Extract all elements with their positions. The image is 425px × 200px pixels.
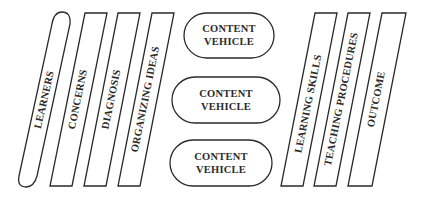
left-columns: LEARNERS CONCERNS DIAGNOSIS ORGANIZING I… — [19, 12, 174, 187]
content-vehicle-node-1: CONTENT VEHICLE — [184, 13, 274, 58]
content-vehicle-label-3-line2: VEHICLE — [196, 164, 246, 175]
content-vehicle-label-2-line1: CONTENT — [199, 88, 252, 99]
content-vehicle-label-1-line2: VEHICLE — [204, 36, 254, 47]
curriculum-diagram: LEARNERS CONCERNS DIAGNOSIS ORGANIZING I… — [0, 0, 425, 200]
right-columns: LEARNING SKILLS TEACHING PROCEDURES OUTC… — [281, 13, 406, 186]
content-vehicle-label-1-line1: CONTENT — [202, 23, 255, 34]
content-vehicle-label-3-line1: CONTENT — [194, 151, 247, 162]
content-vehicle-label-2-line2: VEHICLE — [201, 101, 251, 112]
content-vehicle-shape-3 — [170, 140, 272, 186]
content-vehicle-shape-2 — [172, 77, 280, 123]
center-nodes: CONTENT VEHICLE CONTENT VEHICLE CONTENT … — [170, 13, 280, 186]
content-vehicle-node-2: CONTENT VEHICLE — [172, 77, 280, 123]
content-vehicle-node-3: CONTENT VEHICLE — [170, 140, 272, 186]
